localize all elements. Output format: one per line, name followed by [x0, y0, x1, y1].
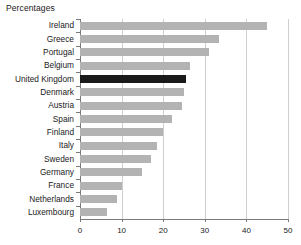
category-tick: [76, 139, 80, 140]
category-label-sweden: Sweden: [2, 155, 74, 164]
bar-row: [80, 59, 288, 72]
bar-ireland: [80, 22, 267, 30]
x-tick-label: 30: [200, 226, 209, 235]
bar-finland: [80, 128, 163, 136]
bar-row: [80, 72, 288, 85]
bar-italy: [80, 142, 157, 150]
category-label-luxembourg: Luxembourg: [2, 208, 74, 217]
category-label-united-kingdom: United Kingdom: [2, 75, 74, 84]
x-tick-label: 20: [159, 226, 168, 235]
category-tick: [76, 86, 80, 87]
category-label-spain: Spain: [2, 115, 74, 124]
bar-row: [80, 166, 288, 179]
bar-luxembourg: [80, 208, 107, 216]
bar-belgium: [80, 62, 190, 70]
x-tick-mark: [288, 219, 289, 222]
category-tick: [76, 112, 80, 113]
bar-row: [80, 126, 288, 139]
x-tick-label: 50: [284, 226, 293, 235]
category-tick: [76, 152, 80, 153]
bar-row: [80, 112, 288, 125]
bar-denmark: [80, 88, 184, 96]
x-tick-label: 10: [117, 226, 126, 235]
x-tick-mark: [163, 219, 164, 222]
category-tick: [76, 99, 80, 100]
category-label-denmark: Denmark: [2, 88, 74, 97]
x-tick-label: 40: [242, 226, 251, 235]
category-tick: [76, 179, 80, 180]
category-label-france: France: [2, 181, 74, 190]
bar-greece: [80, 35, 219, 43]
bar-row: [80, 86, 288, 99]
chart-title: Percentages: [6, 3, 55, 13]
category-label-germany: Germany: [2, 168, 74, 177]
x-axis-line: [80, 219, 289, 220]
bar-row: [80, 206, 288, 219]
category-label-austria: Austria: [2, 101, 74, 110]
bar-spain: [80, 115, 172, 123]
x-tick-mark: [80, 219, 81, 222]
bar-row: [80, 19, 288, 32]
category-tick: [76, 59, 80, 60]
category-axis: IrelandGreecePortugalBelgiumUnited Kingd…: [0, 19, 74, 219]
bar-united-kingdom: [80, 75, 186, 83]
category-label-netherlands: Netherlands: [2, 195, 74, 204]
bar-row: [80, 179, 288, 192]
bar-portugal: [80, 48, 209, 56]
bar-germany: [80, 168, 142, 176]
bar-austria: [80, 102, 182, 110]
category-tick: [76, 166, 80, 167]
bar-row: [80, 32, 288, 45]
category-label-belgium: Belgium: [2, 61, 74, 70]
category-label-finland: Finland: [2, 128, 74, 137]
category-tick: [76, 126, 80, 127]
plot-area: [80, 19, 288, 219]
bar-netherlands: [80, 195, 117, 203]
category-label-greece: Greece: [2, 35, 74, 44]
category-label-portugal: Portugal: [2, 48, 74, 57]
x-tick-mark: [122, 219, 123, 222]
bar-sweden: [80, 155, 151, 163]
bar-row: [80, 139, 288, 152]
x-tick-label: 0: [78, 226, 82, 235]
bar-row: [80, 99, 288, 112]
category-tick: [76, 72, 80, 73]
x-tick-mark: [246, 219, 247, 222]
category-tick: [76, 32, 80, 33]
bar-chart: Percentages IrelandGreecePortugalBelgium…: [0, 0, 301, 245]
category-label-ireland: Ireland: [2, 21, 74, 30]
gridline: [288, 19, 289, 219]
category-tick: [76, 206, 80, 207]
category-label-italy: Italy: [2, 141, 74, 150]
category-tick: [76, 46, 80, 47]
bar-row: [80, 46, 288, 59]
x-tick-mark: [205, 219, 206, 222]
category-tick: [76, 192, 80, 193]
bar-row: [80, 192, 288, 205]
category-tick: [76, 19, 80, 20]
bar-row: [80, 152, 288, 165]
bar-france: [80, 182, 122, 190]
